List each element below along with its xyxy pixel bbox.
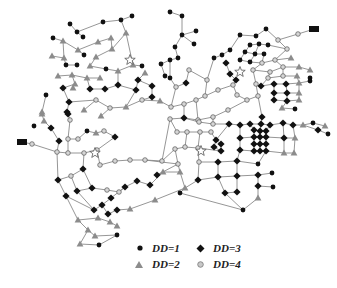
node-dd3 — [266, 121, 273, 128]
edge — [230, 35, 240, 50]
node-dd3 — [217, 147, 224, 154]
node-dd2 — [182, 184, 189, 190]
node-dd3 — [257, 120, 264, 127]
node-dd4 — [256, 94, 261, 99]
node-dd4 — [76, 137, 81, 142]
node-dd4 — [245, 98, 250, 103]
node-dd2 — [123, 103, 130, 109]
node-dd3 — [114, 81, 121, 88]
node-dd4 — [226, 108, 231, 113]
node-dd3 — [262, 133, 269, 140]
node-dd3 — [236, 121, 243, 128]
node-dd1 — [212, 56, 217, 61]
node-dd4 — [251, 68, 256, 73]
node-dd2 — [296, 96, 303, 102]
node-dd2 — [93, 53, 100, 59]
node-dd4 — [182, 102, 187, 107]
node-dd3 — [236, 134, 243, 141]
node-dd4 — [176, 162, 181, 167]
node-dd3 — [86, 85, 93, 92]
node-dd3 — [214, 173, 221, 180]
node-dd4 — [98, 163, 103, 168]
node-dd4 — [273, 58, 278, 63]
edge — [196, 100, 198, 120]
node-dd4 — [281, 65, 286, 70]
edge — [216, 124, 229, 140]
node-dd4 — [117, 190, 122, 195]
edge — [240, 35, 256, 36]
edge — [142, 100, 160, 101]
node-dd3 — [148, 93, 155, 100]
node-dd3 — [250, 126, 257, 133]
node-dd2 — [114, 222, 121, 228]
edge — [77, 191, 94, 210]
edge — [171, 87, 176, 107]
node-dd2 — [255, 194, 262, 200]
node-dd1 — [119, 18, 124, 23]
node-dd3 — [258, 113, 265, 120]
node-dd3 — [283, 89, 290, 96]
node-layer — [30, 10, 331, 248]
node-dd2 — [296, 89, 303, 95]
node-dd2 — [177, 168, 184, 174]
node-dd4 — [105, 188, 110, 193]
node-dd1 — [248, 43, 253, 48]
node-dd3 — [283, 97, 290, 104]
node-dd1 — [176, 56, 181, 61]
node-dd1 — [270, 171, 275, 176]
node-dd4 — [66, 137, 71, 142]
edge — [77, 22, 103, 32]
node-dd2 — [108, 34, 115, 40]
node-dd3 — [101, 85, 108, 92]
node-dd2 — [87, 62, 94, 68]
node-dd3 — [262, 147, 269, 154]
node-dd3 — [88, 184, 95, 191]
node-dd4 — [128, 158, 133, 163]
node-dd3 — [182, 79, 189, 86]
node-dd1 — [44, 93, 49, 98]
node-dd1 — [32, 124, 37, 129]
node-dd3 — [133, 177, 140, 184]
edge — [278, 34, 298, 40]
node-dd1 — [168, 58, 173, 63]
node-dd1 — [64, 63, 69, 68]
node-dd3 — [214, 158, 221, 165]
node-dd3 — [236, 146, 243, 153]
node-dd2 — [288, 54, 295, 60]
node-dd4 — [174, 85, 179, 90]
edge — [66, 196, 78, 220]
node-dd1 — [115, 233, 120, 238]
node-dd3 — [113, 206, 120, 213]
node-dd1 — [101, 20, 106, 25]
node-dd1 — [97, 243, 102, 248]
node-dd3 — [194, 176, 201, 183]
node-dd3 — [65, 98, 72, 105]
edge — [69, 100, 96, 102]
node-dd4 — [198, 130, 203, 135]
edge — [103, 20, 121, 22]
node-dd1 — [140, 64, 145, 69]
node-dd3 — [270, 89, 277, 96]
node-dd1 — [75, 63, 80, 68]
node-dd1 — [308, 79, 313, 84]
node-dd1 — [81, 35, 86, 40]
node-dd1 — [257, 42, 262, 47]
node-dd3 — [104, 210, 111, 217]
node-dd4 — [285, 47, 290, 52]
node-dd2 — [69, 71, 76, 77]
edge — [99, 235, 117, 245]
star-node-icon — [235, 67, 245, 77]
node-dd1 — [243, 50, 248, 55]
node-dd1 — [173, 45, 178, 50]
node-dd4 — [197, 120, 202, 125]
node-dd1 — [159, 62, 164, 67]
node-dd1 — [85, 129, 90, 134]
node-dd4 — [211, 122, 216, 127]
node-dd1 — [130, 14, 135, 19]
node-dd1 — [180, 33, 185, 38]
edge — [83, 169, 92, 188]
node-dd3 — [262, 140, 269, 147]
node-dd2 — [160, 168, 167, 174]
node-dd1 — [264, 27, 269, 32]
node-dd4 — [254, 82, 259, 87]
